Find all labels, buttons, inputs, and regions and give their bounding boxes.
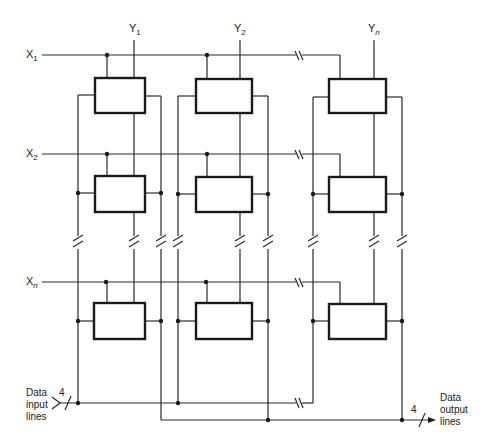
column-label-y2: Y2 <box>234 22 246 37</box>
cell-r2-c1 <box>95 176 145 212</box>
cell-rn-c2 <box>196 303 252 339</box>
vertical-break-marks <box>73 235 407 247</box>
data-output-width: 4 <box>411 404 417 415</box>
cell-r1-c1 <box>95 78 145 113</box>
row-label-x2: X2 <box>26 147 38 162</box>
cell-r2-cn <box>329 177 386 212</box>
column-label-y1: Y1 <box>129 22 141 37</box>
input-bus-entry-icon <box>52 397 60 409</box>
data-output-label-line1: Data <box>440 392 462 403</box>
data-input-bus <box>52 396 313 410</box>
memory-array-diagram: X1 X2 Xn Y1 Y2 Yn Data input lines 4 Dat… <box>0 0 492 447</box>
data-output-label-line2: output <box>440 404 468 415</box>
data-input-width: 4 <box>59 387 65 398</box>
cell-r1-c2 <box>196 79 252 113</box>
cell-r2-c2 <box>196 177 252 212</box>
data-input-label-line1: Data <box>26 387 48 398</box>
output-arrow-icon <box>428 417 436 423</box>
cell-r1-cn <box>329 79 386 113</box>
row-label-x1: X1 <box>26 48 38 63</box>
row-select-lines <box>42 51 340 303</box>
cell-rn-cn <box>329 304 386 339</box>
data-input-label-line3: lines <box>26 411 47 422</box>
data-input-label-line2: input <box>26 399 48 410</box>
row-label-xn: Xn <box>26 275 38 290</box>
cell-rn-c1 <box>94 303 145 339</box>
column-label-yn: Yn <box>368 22 380 37</box>
data-output-label-line3: lines <box>440 416 461 427</box>
data-output-bus <box>161 413 436 427</box>
